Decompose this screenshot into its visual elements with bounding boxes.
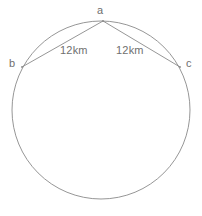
vertex-label-b: b [9,58,15,69]
vertex-label-c: c [186,58,192,69]
geometry-figure: a b c 12km 12km [0,0,202,216]
vertex-b-point [21,66,23,68]
chord-ac-label: 12km [116,45,144,56]
chord-ab-label: 12km [60,45,88,56]
geometry-canvas [0,0,202,216]
vertex-c-point [179,66,181,68]
vertex-a-point [102,20,104,22]
circle-outline [12,21,190,199]
vertex-label-a: a [97,5,103,16]
